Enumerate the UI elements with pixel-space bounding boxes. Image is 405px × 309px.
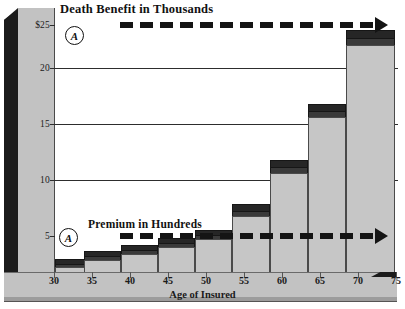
x-tick-label-50: 50	[201, 275, 211, 286]
plot-area	[54, 8, 398, 272]
x-tick-label-45: 45	[163, 275, 173, 286]
bar-60[interactable]	[270, 173, 308, 272]
y-tick-label-25: $25	[18, 20, 50, 30]
chart-figure: $25 20 15 10 5	[0, 0, 405, 309]
bar-40[interactable]	[121, 254, 158, 272]
y-tick-label-15: 15	[18, 119, 50, 129]
premium-label: Premium in Hundreds	[85, 218, 205, 230]
x-axis-title: Age of Insured	[0, 289, 405, 300]
bar-35[interactable]	[84, 260, 121, 272]
bar-65[interactable]	[308, 117, 346, 272]
x-tick-label-70: 70	[353, 275, 363, 286]
x-tick-label-40: 40	[125, 275, 135, 286]
y-tick-label-10: 10	[18, 175, 50, 185]
x-axis-labels: 30 35 40 45 50 55 60 65 70 75	[54, 275, 397, 289]
callout-marker-a-top: A	[65, 26, 84, 45]
death-benefit-reference-line	[120, 22, 375, 28]
bar-50[interactable]	[195, 239, 232, 272]
x-tick-label-75: 75	[391, 275, 401, 286]
x-tick-label-60: 60	[277, 275, 287, 286]
y-tick-label-5: 5	[18, 231, 50, 241]
y-tick-mark-25	[50, 25, 55, 26]
x-tick-label-65: 65	[315, 275, 325, 286]
death-benefit-arrow-icon	[375, 17, 388, 33]
premium-reference-line	[120, 233, 375, 239]
x-tick-label-35: 35	[87, 275, 97, 286]
y-tick-label-20: 20	[18, 63, 50, 73]
y-tick-mark-5	[50, 236, 55, 237]
x-tick-label-30: 30	[49, 275, 59, 286]
bar-55[interactable]	[232, 216, 270, 272]
y-tick-mark-10	[50, 180, 55, 181]
y-axis-labels: $25 20 15 10 5	[18, 8, 50, 272]
x-tick-label-55: 55	[239, 275, 249, 286]
chart-title: Death Benefit in Thousands	[60, 2, 213, 17]
y-tick-mark-20	[50, 68, 55, 69]
y-tick-mark-15	[50, 124, 55, 125]
callout-marker-a-bottom: A	[59, 228, 78, 247]
bar-45[interactable]	[158, 247, 195, 272]
premium-arrow-icon	[375, 228, 388, 244]
